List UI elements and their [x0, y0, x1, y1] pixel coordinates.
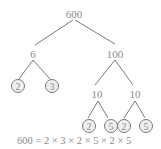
node-600: 600: [66, 8, 83, 20]
prime-2: 2: [16, 81, 21, 92]
prime-2: 2: [122, 121, 127, 132]
edge-10a-2: [88, 101, 98, 118]
edge-6-3: [33, 60, 50, 79]
edge-6-2: [19, 60, 33, 79]
edge-10b-2: [124, 101, 135, 118]
prime-5: 5: [109, 121, 114, 132]
edge-100-10a: [95, 60, 115, 85]
node-100: 100: [107, 48, 124, 60]
node-6: 6: [30, 48, 36, 60]
edge-100-10b: [115, 60, 133, 85]
node-10-left: 10: [92, 88, 104, 100]
edge-10b-5: [135, 101, 145, 118]
prime-5: 5: [144, 121, 149, 132]
prime-factorization-equation: 600 = 2 × 3 × 2 × 5 × 2 × 5: [17, 135, 131, 146]
prime-2: 2: [87, 121, 92, 132]
prime-3: 3: [50, 81, 55, 92]
edge-600-100: [75, 20, 115, 44]
node-10-right: 10: [130, 88, 142, 100]
tree-edges: [19, 20, 145, 118]
factor-tree-diagram: 600 6 100 10 10 2 3 2 5 2 5 600 = 2 × 3 …: [0, 0, 161, 149]
edge-600-6: [35, 20, 73, 45]
edge-10a-5: [98, 101, 108, 118]
